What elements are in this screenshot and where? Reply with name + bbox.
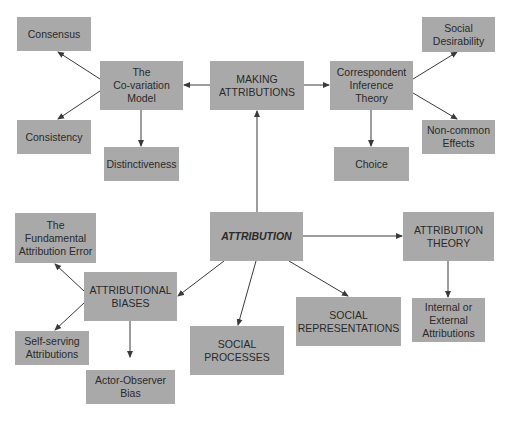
node-fundamental-attribution-error: The Fundamental Attribution Error bbox=[15, 213, 96, 263]
edge-correspondent-to-noncommon bbox=[413, 93, 457, 119]
node-internal-external-attributions: Internal or External Attributions bbox=[412, 298, 485, 342]
node-covariation-model: The Co-variation Model bbox=[100, 61, 183, 110]
node-consistency: Consistency bbox=[17, 120, 91, 154]
edge-biases-to-fundamental bbox=[55, 264, 84, 291]
node-attribution-central: ATTRIBUTION bbox=[210, 212, 303, 261]
node-social-representations: SOCIAL REPRESENTATIONS bbox=[296, 297, 401, 346]
node-social-processes: SOCIAL PROCESSES bbox=[190, 326, 284, 375]
node-distinctiveness: Distinctiveness bbox=[104, 147, 179, 181]
node-choice: Choice bbox=[334, 147, 409, 181]
node-actor-observer-bias: Actor-Observer Bias bbox=[86, 370, 175, 404]
node-attribution-theory: ATTRIBUTION THEORY bbox=[403, 212, 494, 261]
node-social-desirability: Social Desirability bbox=[422, 17, 495, 52]
edge-correspondent-to-social_desirability bbox=[413, 52, 457, 79]
node-correspondent-inference-theory: Correspondent Inference Theory bbox=[330, 61, 413, 110]
node-attributional-biases: ATTRIBUTIONAL BIASES bbox=[84, 272, 177, 321]
edge-covariation-to-consistency bbox=[58, 91, 100, 119]
node-self-serving-attributions: Self-serving Attributions bbox=[15, 331, 89, 365]
edge-attribution-to-biases bbox=[178, 261, 224, 296]
edge-attribution-to-social_processes bbox=[238, 261, 256, 325]
node-non-common-effects: Non-common Effects bbox=[422, 120, 495, 154]
concept-map-canvas: Consensus The Co-variation Model MAKING … bbox=[0, 0, 509, 421]
edge-biases-to-self_serving bbox=[55, 303, 84, 330]
node-making-attributions: MAKING ATTRIBUTIONS bbox=[210, 61, 304, 110]
edge-attribution-to-social_representations bbox=[289, 261, 348, 296]
node-consensus: Consensus bbox=[17, 17, 91, 51]
edge-covariation-to-consensus bbox=[58, 52, 100, 79]
